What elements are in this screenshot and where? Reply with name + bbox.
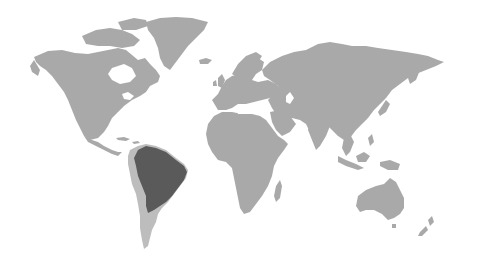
- world-map: [0, 0, 484, 263]
